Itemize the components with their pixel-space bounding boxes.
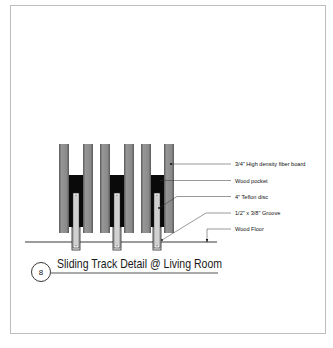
sliding-track-detail-drawing: 3/4" High density fiber board Wood pocke…	[0, 0, 333, 348]
fiber-board	[141, 144, 151, 233]
leader-wood-floor	[207, 229, 231, 242]
drawing-title: Sliding Track Detail @ Living Room	[57, 256, 222, 271]
detail-number: 8	[39, 268, 44, 277]
fiber-board	[164, 144, 174, 233]
label-wood-floor: Wood Floor	[235, 226, 264, 232]
label-teflon-disc: 4" Teflon disc	[235, 194, 268, 200]
panel-2	[100, 144, 134, 250]
fiber-board	[59, 144, 69, 233]
teflon-disc	[73, 193, 79, 248]
label-groove: 1/2" x 3/8" Groove	[235, 210, 280, 216]
panel-3	[141, 144, 174, 250]
fiber-board	[100, 144, 110, 233]
fiber-board	[83, 144, 93, 233]
teflon-disc	[154, 193, 160, 248]
fiber-board	[124, 144, 134, 233]
label-wood-pocket: Wood pocket	[235, 178, 268, 184]
label-fiber-board: 3/4" High density fiber board	[235, 161, 305, 167]
panel-1	[59, 144, 93, 250]
teflon-disc	[114, 193, 120, 248]
